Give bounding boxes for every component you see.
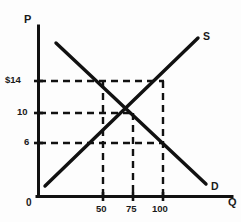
y-axis-label: P — [24, 13, 31, 25]
x-tick-label-100: 100 — [152, 203, 168, 214]
x-axis-label: Q — [228, 196, 237, 208]
supply-curve-label: S — [203, 30, 210, 42]
x-tick-label-75: 75 — [126, 203, 137, 214]
x-tick-label-50: 50 — [96, 203, 107, 214]
origin-label: 0 — [26, 197, 32, 208]
supply-demand-chart: P Q 0 S D $14 10 6 50 75 100 — [0, 0, 241, 222]
y-tick-label-10: 10 — [17, 106, 28, 117]
y-tick-label-6: 6 — [24, 136, 29, 147]
y-tick-label-14: $14 — [5, 74, 21, 85]
demand-curve-label: D — [211, 180, 219, 192]
